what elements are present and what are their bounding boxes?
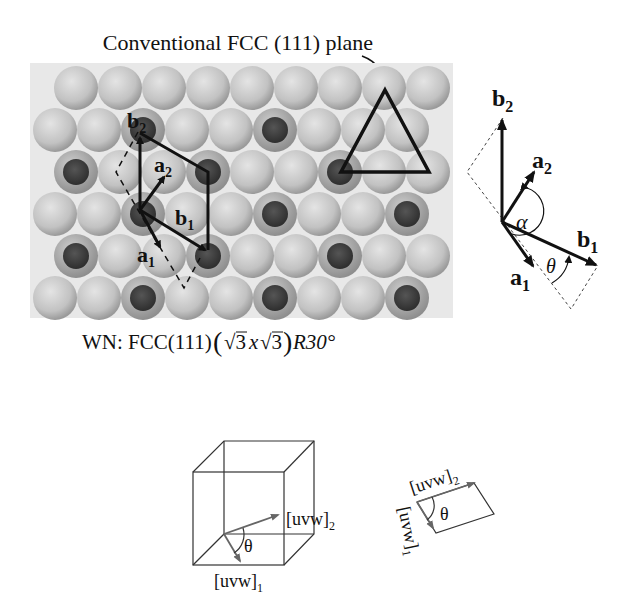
surface-atom: [230, 66, 274, 110]
surface-atom: [318, 66, 362, 110]
theta-arc: [427, 497, 434, 520]
dark-atom-core: [394, 201, 420, 227]
surface-atom: [341, 192, 385, 236]
a1-label: a1: [510, 264, 530, 294]
caption-times: x: [248, 330, 259, 354]
figure-canvas: Conventional FCC (111) plane b2 a2 b1 a1…: [0, 0, 626, 598]
dark-atom-core: [63, 159, 89, 185]
fcc-lattice: b2 a2 b1 a1: [30, 63, 453, 320]
b1-label: b1: [577, 226, 598, 256]
surface-atom: [142, 66, 186, 110]
dark-atom-core: [262, 201, 288, 227]
caption-root1: √3: [224, 330, 246, 354]
surface-atom: [362, 66, 406, 110]
uvw1-label: [uvw]1: [390, 505, 424, 558]
surface-atom: [297, 108, 341, 152]
caption-paren-close: ): [283, 326, 292, 357]
surface-atom: [274, 66, 318, 110]
surface-atom: [297, 192, 341, 236]
surface-atom: [297, 276, 341, 320]
surface-atom: [98, 150, 142, 194]
surface-atom: [33, 276, 77, 320]
dark-atom-core: [262, 117, 288, 143]
caption-paren-open: (: [213, 326, 222, 357]
a2-label: a2: [532, 147, 552, 177]
uvw1-label: [uvw]1: [214, 571, 263, 595]
surface-atom: [209, 108, 253, 152]
figure-title: Conventional FCC (111) plane: [103, 30, 373, 55]
surface-atom: [165, 276, 209, 320]
surface-atom: [165, 108, 209, 152]
surface-atom: [274, 234, 318, 278]
b2-label: b2: [492, 85, 513, 115]
theta-label: θ: [546, 255, 556, 277]
alpha-label: α: [516, 209, 528, 234]
surface-atom: [406, 66, 450, 110]
surface-atom: [274, 150, 318, 194]
surface-atom: [54, 66, 98, 110]
surface-atom: [77, 192, 121, 236]
surface-atom: [406, 234, 450, 278]
dark-atom-core: [327, 243, 353, 269]
surface-atom: [77, 108, 121, 152]
uvw1-vector: [417, 502, 433, 528]
surface-atom: [230, 150, 274, 194]
surface-atom: [209, 192, 253, 236]
surface-atom: [77, 276, 121, 320]
surface-atom: [98, 234, 142, 278]
caption-root2: √3: [260, 330, 282, 354]
surface-atom: [98, 66, 142, 110]
surface-atom: [33, 108, 77, 152]
dark-atom-core: [130, 285, 156, 311]
uvw2-vector: [224, 515, 278, 534]
caption-rotation: R30°: [292, 330, 336, 354]
surface-atom: [230, 234, 274, 278]
theta-label: θ: [244, 536, 253, 556]
dark-atom-core: [262, 285, 288, 311]
surface-atom: [209, 276, 253, 320]
vector-diagram: b2 a2 b1 a1 α θ: [467, 85, 598, 309]
caption-prefix: WN: FCC(111): [82, 330, 212, 354]
theta-label: θ: [440, 504, 449, 524]
dark-atom-core: [394, 285, 420, 311]
uvw2-label: [uvw]2: [286, 509, 335, 533]
surface-atom: [362, 234, 406, 278]
surface-atom: [33, 192, 77, 236]
theta-arc: [234, 528, 244, 553]
surface-atom: [341, 276, 385, 320]
dark-atom-core: [63, 243, 89, 269]
caption: WN: FCC(111) ( √3 x √3 ) R30°: [82, 326, 336, 357]
surface-atom: [186, 66, 230, 110]
uvw1-vector: [224, 534, 240, 561]
cube-diagram: [193, 441, 314, 565]
